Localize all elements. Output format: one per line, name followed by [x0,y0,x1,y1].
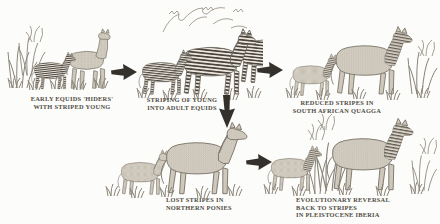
caption-line: EARLY EQUIDS 'HIDERS' [16,95,128,103]
caption-pleistocene-iberia: EVOLUTIONARY REVERSAL BACK TO STRIPES IN… [296,196,390,219]
caption-line: STRIPING OF YOUNG [134,96,230,104]
acacia-branches [163,7,247,32]
caption-striped-adults: STRIPING OF YOUNG INTO ADULT EQUIDS [134,96,230,111]
caption-quagga: REDUCED STRIPES IN SOUTH AFRICAN QUAGGA [280,99,394,114]
pleistocene-iberia-illustration [260,104,440,198]
caption-line: WITH STRIPED YOUNG [16,103,128,111]
caption-line: IN PLEISTOCENE IBERIA [296,211,390,219]
caption-line: NORTHERN PONIES [166,204,232,212]
caption-line: INTO ADULT EQUIDS [134,104,230,112]
quagga-illustration [282,8,440,102]
caption-northern-ponies: LOST STRIPES IN NORTHERN PONIES [166,196,232,211]
arrow-striped-adults-to-quagga [256,59,284,81]
caption-line: LOST STRIPES IN [166,196,232,204]
caption-early-equids: EARLY EQUIDS 'HIDERS' WITH STRIPED YOUNG [16,95,128,110]
caption-line: SOUTH AFRICAN QUAGGA [280,107,394,115]
striped-adults-illustration [133,2,263,100]
caption-line: REDUCED STRIPES IN [280,99,394,107]
northern-ponies-illustration [104,112,256,202]
early-equids-illustration [6,18,120,96]
caption-line: BACK TO STRIPES [296,204,390,212]
caption-line: EVOLUTIONARY REVERSAL [296,196,390,204]
equid-stripe-evolution-diagram: EARLY EQUIDS 'HIDERS' WITH STRIPED YOUNG… [0,0,440,224]
